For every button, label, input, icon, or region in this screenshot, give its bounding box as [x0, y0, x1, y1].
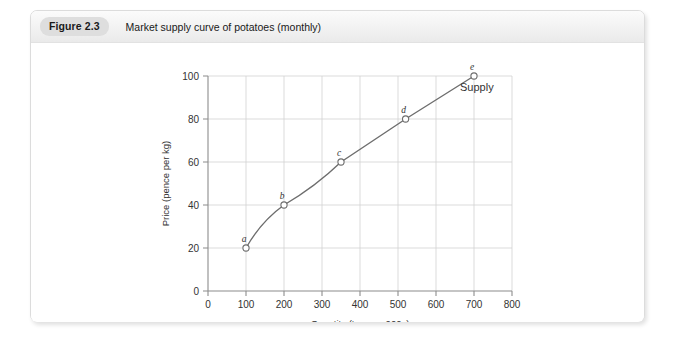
svg-text:d: d — [401, 105, 406, 115]
svg-text:200: 200 — [276, 299, 293, 310]
y-axis-title: Price (pence per kg) — [160, 141, 171, 227]
data-point-labels: abcde — [242, 62, 474, 244]
svg-text:800: 800 — [504, 299, 521, 310]
svg-text:100: 100 — [238, 299, 255, 310]
svg-text:300: 300 — [314, 299, 331, 310]
grid-lines — [208, 76, 512, 291]
svg-text:a: a — [242, 234, 247, 244]
svg-text:20: 20 — [188, 243, 200, 254]
figure-number-badge: Figure 2.3 — [40, 17, 109, 36]
svg-text:Supply: Supply — [460, 81, 494, 93]
svg-text:60: 60 — [188, 157, 200, 168]
figure-caption: Market supply curve of potatoes (monthly… — [126, 21, 322, 33]
figure-header: Figure 2.3 Market supply curve of potato… — [31, 11, 644, 43]
svg-text:0: 0 — [205, 299, 211, 310]
svg-text:40: 40 — [188, 200, 200, 211]
svg-text:80: 80 — [188, 114, 200, 125]
svg-text:600: 600 — [428, 299, 445, 310]
svg-text:b: b — [280, 191, 285, 201]
supply-curve-chart: 0100200300400500600700800 020406080100 a… — [31, 43, 644, 322]
y-axis-ticks: 020406080100 — [182, 71, 208, 297]
series-annotations: Supply — [460, 81, 494, 93]
svg-text:500: 500 — [390, 299, 407, 310]
x-axis-ticks: 0100200300400500600700800 — [205, 291, 521, 310]
svg-text:c: c — [337, 148, 342, 158]
figure-card: Figure 2.3 Market supply curve of potato… — [30, 10, 645, 322]
svg-text:0: 0 — [193, 286, 199, 297]
svg-text:100: 100 — [182, 71, 199, 82]
svg-text:700: 700 — [466, 299, 483, 310]
x-axis-title: Quantity (tonnes: 000s) — [311, 318, 410, 322]
svg-text:400: 400 — [352, 299, 369, 310]
chart-plot-area: 0100200300400500600700800 020406080100 a… — [31, 43, 644, 322]
svg-text:e: e — [470, 62, 474, 72]
